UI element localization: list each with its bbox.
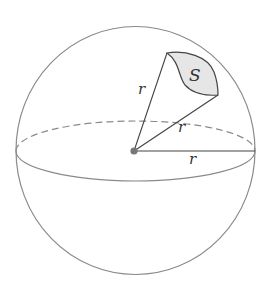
sphere-figure	[0, 0, 260, 287]
radius-line-upper	[134, 53, 167, 151]
radius-line-middle	[134, 95, 218, 151]
label-region-s: S	[189, 67, 201, 84]
label-radius-upper: r	[138, 82, 145, 97]
label-radius-middle: r	[178, 120, 185, 135]
sphere-diagram: S r r r	[0, 0, 260, 287]
center-dot	[130, 147, 137, 154]
label-radius-horizontal: r	[189, 152, 196, 167]
equator-front	[16, 151, 255, 181]
